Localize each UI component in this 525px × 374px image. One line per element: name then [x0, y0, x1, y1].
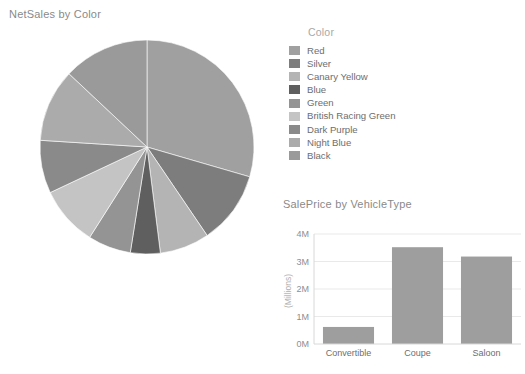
bar[interactable] — [461, 257, 512, 344]
color-legend: Color RedSilverCanary YellowBlueGreenBri… — [282, 26, 442, 163]
legend-color-swatch — [289, 138, 300, 147]
legend-item-label: Red — [307, 46, 325, 56]
bar[interactable] — [323, 327, 374, 344]
x-tick-label: Convertible — [326, 348, 372, 358]
pie-chart[interactable] — [0, 0, 278, 300]
bar-x-tick-labels: ConvertibleCoupeSaloon — [326, 348, 501, 358]
legend-item-label: Night Blue — [307, 138, 351, 148]
y-tick-label: 3M — [296, 257, 309, 267]
y-tick-label: 4M — [296, 229, 309, 239]
legend-item-label: Green — [307, 98, 334, 108]
legend-item[interactable]: Red — [282, 44, 442, 57]
saleprice-by-vehicletype-card: SalePrice by VehicleType 0M1M2M3M4M Conv… — [281, 196, 525, 374]
legend-list: RedSilverCanary YellowBlueGreenBritish R… — [282, 44, 442, 162]
legend-color-swatch — [289, 59, 300, 68]
legend-color-swatch — [289, 72, 300, 81]
legend-item[interactable]: Black — [282, 150, 442, 163]
legend-item-label: Blue — [307, 85, 326, 95]
legend-color-swatch — [289, 112, 300, 121]
legend-color-swatch — [289, 125, 300, 134]
legend-item[interactable]: Dark Purple — [282, 123, 442, 136]
legend-color-swatch — [289, 85, 300, 94]
x-tick-label: Saloon — [472, 348, 500, 358]
legend-item[interactable]: Night Blue — [282, 136, 442, 149]
legend-item[interactable]: Silver — [282, 57, 442, 70]
legend-item[interactable]: Green — [282, 97, 442, 110]
x-tick-label: Coupe — [404, 348, 431, 358]
legend-color-swatch — [289, 99, 300, 108]
y-tick-label: 0M — [296, 339, 309, 349]
legend-item-label: Dark Purple — [307, 125, 358, 135]
legend-item-label: British Racing Green — [307, 111, 396, 121]
bar-chart[interactable]: 0M1M2M3M4M ConvertibleCoupeSaloon (Milli… — [281, 196, 525, 374]
legend-item-label: Silver — [307, 59, 331, 69]
y-tick-label: 2M — [296, 284, 309, 294]
legend-item-label: Canary Yellow — [307, 72, 368, 82]
bar[interactable] — [392, 247, 443, 344]
pie-slice-group[interactable] — [40, 40, 254, 254]
legend-item[interactable]: Blue — [282, 84, 442, 97]
legend-color-swatch — [289, 46, 300, 55]
legend-title: Color — [308, 26, 442, 38]
y-tick-label: 1M — [296, 312, 309, 322]
legend-item[interactable]: British Racing Green — [282, 110, 442, 123]
legend-color-swatch — [289, 151, 300, 160]
netsales-by-color-card: NetSales by Color — [0, 0, 278, 300]
legend-item-label: Black — [307, 151, 330, 161]
legend-item[interactable]: Canary Yellow — [282, 70, 442, 83]
bar-y-tick-labels: 0M1M2M3M4M — [296, 229, 309, 349]
bar-y-axis-title: (Millions) — [283, 274, 293, 308]
